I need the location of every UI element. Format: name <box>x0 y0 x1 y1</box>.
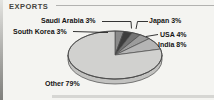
exports-pie-chart-figure: EXPORTS South Korea 3% Saudi Arabia 3% J… <box>0 0 214 100</box>
scan-bottom-rule-artifact <box>52 95 214 99</box>
pie-slices <box>68 31 162 84</box>
leader-usa <box>146 35 158 37</box>
label-usa: USA 4% <box>160 31 187 39</box>
label-other: Other 79% <box>45 80 80 88</box>
label-india: India 8% <box>158 41 186 49</box>
label-japan: Japan 3% <box>149 17 181 25</box>
label-saudi-arabia: Saudi Arabia 3% <box>41 17 96 25</box>
leader-saudi-arabia <box>102 22 132 29</box>
pie-chart-3d <box>0 0 214 100</box>
leader-japan <box>136 22 148 30</box>
label-south-korea: South Korea 3% <box>13 28 67 36</box>
scan-left-edge-artifact <box>0 0 3 100</box>
